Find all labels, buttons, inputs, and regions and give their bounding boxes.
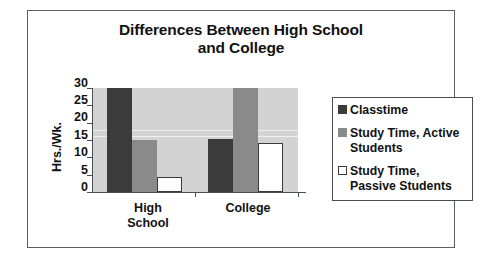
- x-axis-line: [92, 192, 306, 193]
- legend-label-study-active: Study Time, Active Students: [350, 126, 468, 155]
- legend-label-classtime: Classtime: [350, 103, 408, 117]
- legend-label-classtime-line-1: Classtime: [350, 103, 408, 117]
- bar-college-classtime[interactable]: [208, 139, 233, 192]
- y-axis-tick-labels: 30 25 20 15 10 5 0: [64, 83, 88, 191]
- y-tick-label-10: 10: [64, 146, 88, 159]
- bar-college-study-passive[interactable]: [258, 143, 283, 192]
- plot-area: [93, 88, 298, 192]
- category-label-high-school: High School: [118, 201, 178, 231]
- chart-frame: Differences Between High School and Coll…: [27, 10, 455, 248]
- category-divider: [195, 192, 196, 197]
- chart-title: Differences Between High School and Coll…: [28, 21, 454, 57]
- y-tick-label-25: 25: [64, 94, 88, 107]
- category-label-college-line-1: College: [216, 201, 280, 216]
- bar-college-study-active[interactable]: [233, 88, 258, 192]
- chart-title-line-1: Differences Between High School: [28, 21, 454, 39]
- legend-swatch-classtime-icon: [338, 105, 347, 114]
- chart-title-line-2: and College: [28, 39, 454, 57]
- bar-high-school-classtime[interactable]: [107, 88, 132, 192]
- legend-label-study-passive-line-2: Students: [399, 179, 452, 193]
- y-tick-label-15: 15: [64, 129, 88, 142]
- legend-label-study-active-line-1: Study Time, Active: [350, 126, 459, 140]
- legend-swatch-study-active-icon: [338, 128, 347, 137]
- bar-high-school-study-active[interactable]: [132, 140, 157, 192]
- legend-swatch-study-passive-icon: [338, 166, 347, 175]
- category-label-high-school-line-1: High: [118, 201, 178, 216]
- legend-item-study-passive[interactable]: Study Time, Passive Students: [338, 164, 468, 193]
- category-label-college: College: [216, 201, 280, 216]
- y-axis-title-label: Hrs./Wk.: [50, 122, 64, 172]
- legend-label-study-passive: Study Time, Passive Students: [350, 164, 468, 193]
- legend-label-study-active-line-2: Students: [350, 141, 403, 155]
- y-tick-label-20: 20: [64, 111, 88, 124]
- bar-group-high-school: [107, 88, 182, 192]
- bar-high-school-study-passive[interactable]: [157, 177, 182, 192]
- y-axis-title: Hrs./Wk.: [50, 97, 64, 197]
- bar-group-college: [208, 88, 283, 192]
- y-tick-label-30: 30: [64, 77, 88, 90]
- legend-item-classtime[interactable]: Classtime: [338, 103, 468, 117]
- chart-legend: Classtime Study Time, Active Students St…: [332, 97, 473, 201]
- y-tick-label-5: 5: [64, 164, 88, 177]
- category-label-high-school-line-2: School: [118, 216, 178, 231]
- x-axis-end-tick: [298, 192, 299, 197]
- legend-item-study-active[interactable]: Study Time, Active Students: [338, 126, 468, 155]
- y-tick-label-0: 0: [64, 181, 88, 194]
